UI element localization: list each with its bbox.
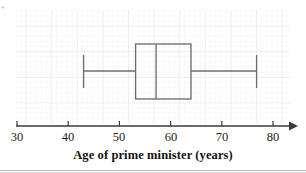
x-tick-label-40: 40 (62, 130, 75, 145)
x-tick-label-60: 60 (165, 130, 178, 145)
page-bottom-rule-shadow (0, 172, 306, 173)
axis-arrowhead (289, 122, 298, 131)
x-tick-label-30: 30 (11, 130, 24, 145)
x-tick-label-70: 70 (216, 130, 229, 145)
x-tick-label-50: 50 (113, 130, 126, 145)
x-tick-label-80: 80 (267, 130, 280, 145)
grid-background (16, 10, 290, 123)
chart-canvas: 30 40 50 60 70 80 Age of prime minister … (0, 0, 306, 173)
x-axis-title: Age of prime minister (years) (0, 148, 306, 163)
scan-artifact-mark: • (1, 3, 7, 12)
page-bottom-rule (0, 170, 306, 171)
